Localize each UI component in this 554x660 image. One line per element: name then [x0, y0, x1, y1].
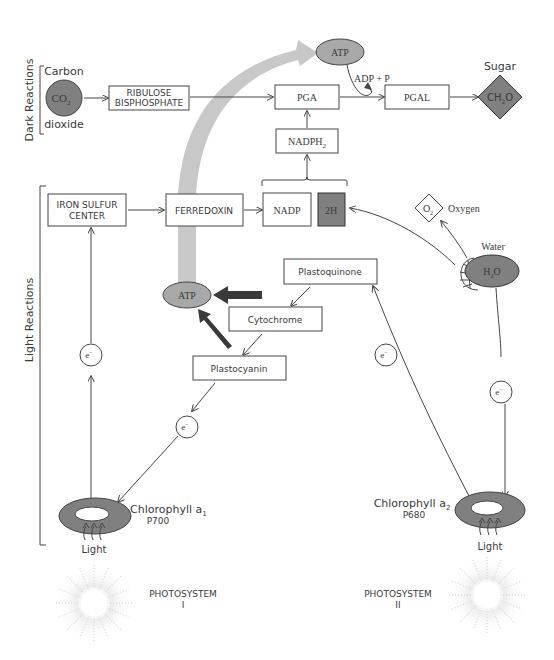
atp-energy-arc: [178, 40, 318, 196]
svg-text:BISPHOSPHATE: BISPHOSPHATE: [115, 98, 184, 108]
svg-text:ATP: ATP: [331, 47, 349, 58]
svg-text:NADP: NADP: [273, 205, 301, 216]
nadp-box: NADP: [263, 193, 311, 226]
sugar-node: Sugar CH2O: [478, 60, 522, 119]
chlorophyll-a1-ring: Chlorophyll a1 P700: [59, 498, 207, 534]
svg-text:PGAL: PGAL: [404, 92, 430, 103]
svg-text:FERREDOXIN: FERREDOXIN: [175, 206, 233, 216]
adp-p-label: ADP + P: [354, 73, 390, 84]
thick-arrow-cytochrome-atp: [213, 286, 262, 304]
electron-right-1: e−: [375, 344, 397, 366]
dioxide-label: dioxide: [44, 118, 84, 131]
iron-sulfur-center-box: IRON SULFUR CENTER: [48, 194, 126, 226]
thick-arrow-plastocyanin-atp: [198, 309, 232, 349]
photosynthesis-diagram: Dark Reactions Light Reactions Carbon CO…: [0, 0, 554, 660]
2h-box: 2H: [318, 193, 345, 226]
chlorophyll-a2-ring: Chlorophyll a2 P680: [374, 492, 525, 528]
atp-mid-node: ATP: [163, 282, 211, 308]
arrow-water-2h: [350, 208, 455, 265]
oxygen-label: Oxygen: [448, 203, 480, 214]
svg-text:Cytochrome: Cytochrome: [248, 315, 303, 325]
electron-mid: e−: [176, 416, 198, 438]
p680-label: P680: [403, 510, 426, 520]
light-label-ps1: Light: [82, 544, 107, 555]
sugar-label: Sugar: [484, 60, 517, 73]
plastoquinone-box: Plastoquinone: [284, 259, 377, 284]
svg-text:ATP: ATP: [178, 290, 196, 301]
svg-text:PHOTOSYSTEM: PHOTOSYSTEM: [149, 589, 217, 599]
arrow-plastocyanin-electron: [192, 383, 215, 411]
pgal-box: PGAL: [385, 85, 449, 109]
arrow-electron-p700: [118, 436, 178, 502]
carbon-label: Carbon: [44, 65, 84, 78]
nadp-2h-brace: [262, 177, 347, 186]
atp-top-node: ATP: [316, 39, 364, 65]
oxygen-node: O2 Oxygen: [415, 194, 480, 222]
ribulose-bisphosphate-box: RIBULOSE BISPHOSPHATE: [109, 86, 189, 110]
light-label-ps2: Light: [478, 541, 503, 552]
arrow-plastoquinone-cytochrome: [291, 287, 310, 306]
light-reactions-bracket: Light Reactions: [23, 186, 46, 545]
p700-label: P700: [147, 516, 170, 526]
arrow-cytochrome-plastocyanin: [243, 334, 262, 355]
light-reactions-label: Light Reactions: [23, 278, 36, 363]
svg-text:2H: 2H: [325, 205, 337, 216]
svg-text:RIBULOSE: RIBULOSE: [127, 88, 172, 98]
arrow-p680-plastoquinone: [373, 286, 470, 498]
photosystem-2-label: PHOTOSYSTEM II: [364, 589, 432, 610]
cytochrome-box: Cytochrome: [229, 307, 322, 331]
svg-text:IRON SULFUR: IRON SULFUR: [57, 200, 118, 210]
water-label: Water: [481, 241, 505, 252]
svg-text:PGA: PGA: [297, 92, 318, 103]
co2-node: Carbon CO2 dioxide: [44, 65, 84, 131]
electron-right-2: e−: [490, 381, 512, 403]
pga-box: PGA: [275, 85, 339, 109]
sun-icon-ps1: [56, 565, 132, 641]
svg-text:PHOTOSYSTEM: PHOTOSYSTEM: [364, 589, 432, 599]
svg-text:Plastocyanin: Plastocyanin: [211, 364, 268, 374]
electron-left: e−: [80, 344, 102, 366]
line-water-electron: [496, 288, 501, 357]
dark-reactions-label: Dark Reactions: [23, 58, 36, 141]
sun-icon-ps2: [449, 557, 525, 633]
arrow-water-oxygen: [441, 221, 467, 258]
svg-text:CENTER: CENTER: [69, 211, 105, 221]
nadph2-box: NADPH2: [276, 129, 338, 153]
water-node: Water H2O: [460, 241, 519, 290]
svg-text:Plastoquinone: Plastoquinone: [298, 267, 362, 277]
plastocyanin-box: Plastocyanin: [193, 356, 286, 380]
svg-text:I: I: [182, 600, 185, 610]
dark-reactions-bracket: Dark Reactions: [23, 58, 44, 141]
svg-text:II: II: [395, 600, 400, 610]
ferredoxin-box: FERREDOXIN: [166, 194, 243, 226]
photosystem-1-label: PHOTOSYSTEM I: [149, 589, 217, 610]
